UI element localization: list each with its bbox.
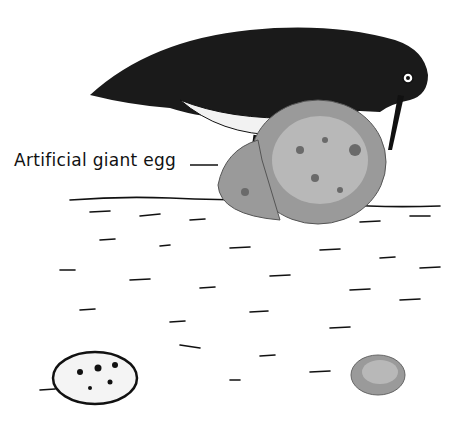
small-egg-left	[53, 352, 137, 404]
illustration	[0, 0, 471, 427]
figure-label: Artificial giant egg	[14, 150, 176, 170]
small-egg-right	[351, 355, 405, 395]
